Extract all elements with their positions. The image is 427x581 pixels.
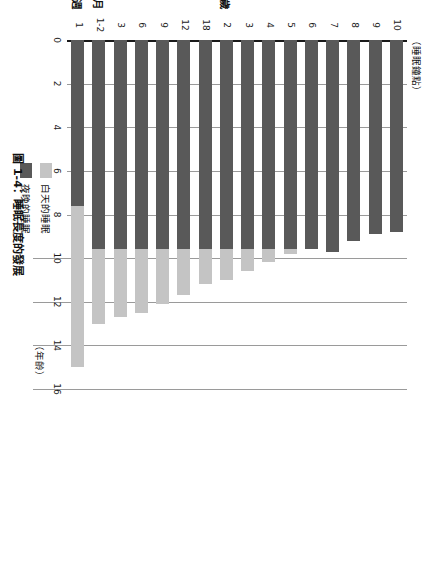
category-label: 12 [180,14,190,36]
bar-segment-night [92,40,105,249]
bar-segment-day [92,249,105,323]
group-label-月: 月 [91,0,106,12]
bar-segment-night [326,40,339,252]
bar-segment-night [347,40,360,241]
category-label: 10 [392,14,402,36]
category-label: 6 [137,14,147,36]
bar-segment-night [220,40,233,249]
value-tick-label-16: 16 [52,377,62,401]
bar-segment-day [135,249,148,312]
value-tick-label-12: 12 [52,290,62,314]
bar-segment-day [71,206,84,367]
category-label: 18 [201,14,211,36]
value-tick-label-8: 8 [52,203,62,227]
bar-row [177,40,190,389]
value-tick-label-14: 14 [52,333,62,357]
bar-row [199,40,212,389]
bar-segment-night [284,40,297,249]
bar-segment-day [241,249,254,271]
bar-segment-night [390,40,403,232]
category-label: 5 [286,14,296,36]
bar-segment-day [156,249,169,304]
category-label: 3 [116,14,126,36]
category-label: 4 [265,14,275,36]
bar-row [262,40,275,389]
group-label-歲: 歲 [218,0,233,12]
bar-row [347,40,360,389]
bar-segment-day [177,249,190,295]
legend-item-day: 白天的睡眠 [39,163,53,234]
value-axis-caption: （睡眠鐘點） [410,36,424,96]
bar-row [220,40,233,389]
category-label: 2 [222,14,232,36]
bar-segment-night [156,40,169,249]
figure-page: （睡眠鐘點） 0246810121416 11-2369121823456789… [0,0,427,581]
bar-series-container [67,40,407,389]
category-label: 7 [329,14,339,36]
value-tick-label-6: 6 [52,159,62,183]
sleep-duration-chart: （睡眠鐘點） 0246810121416 11-2369121823456789… [0,0,427,581]
bar-row [241,40,254,389]
legend-label-day: 白天的睡眠 [39,184,53,234]
bar-segment-day [262,249,275,262]
bar-segment-night [71,40,84,206]
bar-segment-night [369,40,382,234]
bar-row [326,40,339,389]
bar-row [135,40,148,389]
group-label-週: 週 [70,0,85,12]
value-tick-label-10: 10 [52,246,62,270]
bar-row [284,40,297,389]
category-axis-caption: （年齡） [33,341,47,381]
value-tick-label-4: 4 [52,115,62,139]
bar-segment-night [114,40,127,249]
bar-segment-night [241,40,254,249]
bar-segment-day [114,249,127,317]
gridline-16 [33,389,407,390]
category-label: 9 [159,14,169,36]
bar-segment-night [177,40,190,249]
bar-row [92,40,105,389]
plot-area [67,40,407,389]
bar-row [369,40,382,389]
bar-segment-night [135,40,148,249]
bar-segment-night [262,40,275,249]
category-label: 9 [371,14,381,36]
bar-segment-night [305,40,318,249]
bar-row [305,40,318,389]
category-label: 8 [350,14,360,36]
bar-segment-night [199,40,212,249]
bar-row [390,40,403,389]
bar-segment-day [220,249,233,280]
value-tick-label-2: 2 [52,72,62,96]
bar-row [156,40,169,389]
bar-segment-day [284,249,297,253]
legend-swatch-day-icon [40,163,52,178]
figure-caption: 圖 1-4：睡眠長度的發展 [11,40,27,389]
category-label: 1 [74,14,84,36]
bar-segment-day [199,249,212,284]
bar-row [114,40,127,389]
category-label: 6 [307,14,317,36]
category-label: 1-2 [95,14,105,36]
bar-row [71,40,84,389]
value-tick-label-0: 0 [52,28,62,52]
category-label: 3 [244,14,254,36]
